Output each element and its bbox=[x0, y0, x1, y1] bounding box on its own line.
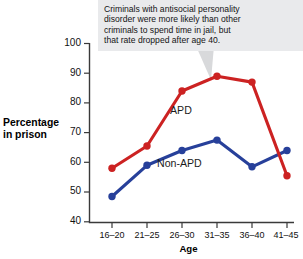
callout-pointer-icon bbox=[196, 46, 214, 80]
y-tick-label: 90 bbox=[55, 67, 81, 78]
y-axis-title-line1: Percentage bbox=[3, 117, 79, 129]
series-label-apd: APD bbox=[170, 104, 192, 116]
y-tick-label: 40 bbox=[55, 215, 81, 226]
callout-line: that rate dropped after age 40. bbox=[104, 35, 298, 45]
callout-line: criminals to spend time in jail, but bbox=[104, 25, 298, 35]
x-axis-title-text: Age bbox=[179, 243, 197, 254]
y-axis-title: Percentage in prison bbox=[3, 117, 79, 140]
x-tick-label: 41–45 bbox=[264, 230, 303, 240]
y-tick-label: 80 bbox=[55, 96, 81, 107]
y-axis-title-line2: in prison bbox=[3, 129, 79, 141]
y-tick-label: 100 bbox=[55, 37, 81, 48]
y-tick-label: 60 bbox=[55, 156, 81, 167]
y-tick-label: 50 bbox=[55, 185, 81, 196]
chart-axes bbox=[84, 43, 294, 228]
chart-figure: 100 90 80 70 60 50 40 16–20 21–25 26–30 … bbox=[0, 0, 303, 259]
x-axis-title: Age bbox=[0, 243, 303, 254]
callout-line: disorder were more likely than other bbox=[104, 14, 298, 24]
callout-line: Criminals with antisocial personality bbox=[104, 4, 298, 14]
annotation-callout-box: Criminals with antisocial personality di… bbox=[98, 0, 303, 51]
series-label-non-apd: Non-APD bbox=[157, 157, 202, 169]
